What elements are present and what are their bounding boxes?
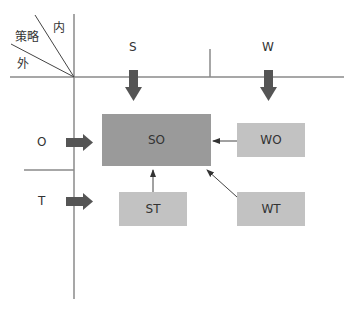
corner-label-inner: 内 bbox=[53, 22, 65, 34]
wt-box: WT bbox=[237, 192, 305, 226]
s-down-arrow bbox=[125, 70, 142, 101]
t-right-arrow bbox=[66, 193, 93, 210]
so-box: SO bbox=[102, 114, 211, 166]
row-header-t: T bbox=[38, 195, 45, 207]
corner-label-outer: 外 bbox=[17, 58, 29, 70]
column-header-w: W bbox=[262, 41, 274, 53]
so-label: SO bbox=[148, 133, 165, 147]
wo-box: WO bbox=[237, 123, 305, 157]
wo-label: WO bbox=[260, 133, 281, 147]
w-down-arrow bbox=[260, 70, 277, 101]
column-header-s: S bbox=[129, 41, 137, 53]
row-header-o: O bbox=[37, 136, 46, 148]
wt-to-so-arrow bbox=[207, 170, 237, 197]
wt-label: WT bbox=[261, 202, 280, 216]
corner-label-strategy: 策略 bbox=[15, 31, 39, 43]
st-box: ST bbox=[119, 192, 187, 226]
st-label: ST bbox=[146, 202, 161, 216]
o-right-arrow bbox=[66, 134, 93, 151]
